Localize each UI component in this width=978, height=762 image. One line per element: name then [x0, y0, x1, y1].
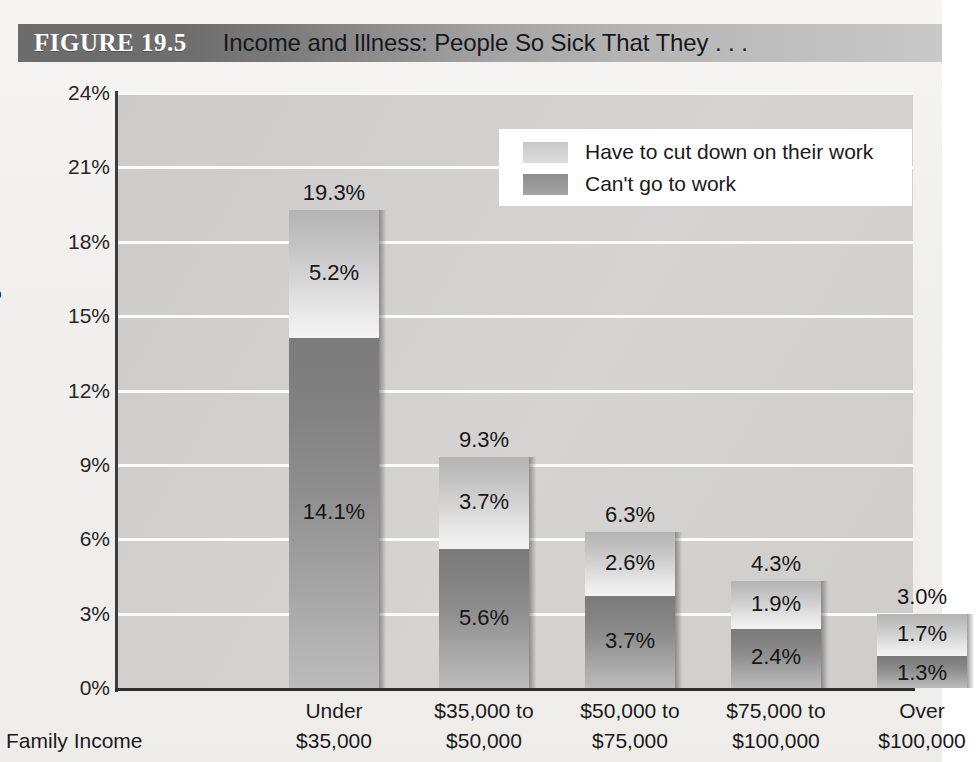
x-axis-tick-label-line: $50,000 to [545, 696, 715, 726]
bar-segment-cant-go-to-work[interactable]: 1.3% [877, 656, 967, 688]
bar-segment-cut-down-on-work[interactable]: 3.7% [439, 457, 529, 549]
legend-item: Have to cut down on their work [523, 137, 912, 167]
bar-segment-value-label: 5.6% [439, 605, 529, 631]
chart: 14.1%5.2%19.3%5.6%3.7%9.3%3.7%2.6%6.3%2.… [0, 62, 942, 762]
bar-segment-value-label: 3.7% [585, 628, 675, 654]
x-axis-tick-label-line: Over [837, 696, 978, 726]
gridline [117, 241, 913, 244]
bar-segment-value-label: 1.9% [731, 591, 821, 617]
gridline [117, 390, 913, 393]
bar-group[interactable]: 3.7%2.6%6.3% [585, 532, 675, 688]
x-axis-tick-label-line: $35,000 [249, 726, 419, 756]
x-axis-tick-label: Over$100,000 [837, 696, 978, 756]
y-axis-tick-label: 15% [6, 304, 110, 328]
bar-shadow [379, 210, 386, 339]
y-axis-title: Percentage [0, 278, 2, 380]
bar-segment-value-label: 5.2% [289, 260, 379, 286]
bar-segment-cut-down-on-work[interactable]: 5.2% [289, 210, 379, 339]
bar-shadow [967, 614, 974, 656]
legend-swatch-dark-icon [523, 174, 568, 195]
bar-total-label: 9.3% [427, 427, 541, 453]
y-axis-tick-label: 12% [6, 379, 110, 403]
figure-number-label: FIGURE 19.5 [34, 29, 187, 57]
y-axis-line [115, 91, 118, 692]
bar-total-label: 19.3% [277, 180, 391, 206]
bar-segment-cant-go-to-work[interactable]: 3.7% [585, 596, 675, 688]
y-axis-tick-labels: 0%3%6%9%12%15%18%21%24% [0, 62, 110, 722]
bar-segment-cut-down-on-work[interactable]: 1.7% [877, 614, 967, 656]
bar-segment-value-label: 2.6% [585, 550, 675, 576]
y-axis-tick-label: 18% [6, 230, 110, 254]
y-axis-tick-label: 6% [6, 527, 110, 551]
gridline [117, 92, 913, 95]
x-axis-tick-label: $50,000 to$75,000 [545, 696, 715, 756]
bar-total-label: 6.3% [573, 502, 687, 528]
bar-segment-cut-down-on-work[interactable]: 2.6% [585, 532, 675, 596]
x-axis-tick-label: $35,000 to$50,000 [399, 696, 569, 756]
figure-title: Income and Illness: People So Sick That … [223, 29, 748, 57]
bar-total-label: 4.3% [719, 551, 833, 577]
bar-segment-value-label: 1.7% [877, 621, 967, 647]
bar-segment-value-label: 2.4% [731, 644, 821, 670]
legend-swatch-light-icon [523, 142, 568, 163]
bar-shadow [967, 656, 974, 688]
bar-shadow [379, 338, 386, 688]
bar-group[interactable]: 5.6%3.7%9.3% [439, 457, 529, 688]
y-axis-tick-label: 21% [6, 155, 110, 179]
bar-group[interactable]: 1.3%1.7%3.0% [877, 614, 967, 688]
bar-segment-cant-go-to-work[interactable]: 14.1% [289, 338, 379, 688]
bar-segment-cut-down-on-work[interactable]: 1.9% [731, 581, 821, 628]
x-axis-title: Family Income [6, 726, 166, 756]
x-axis-tick-label-line: $100,000 [837, 726, 978, 756]
bar-group[interactable]: 2.4%1.9%4.3% [731, 581, 821, 688]
y-axis-tick-label: 3% [6, 602, 110, 626]
x-axis-tick-label: $75,000 to$100,000 [691, 696, 861, 756]
bar-segment-value-label: 1.3% [877, 660, 967, 686]
bar-segment-value-label: 14.1% [289, 499, 379, 525]
x-axis-tick-label-line: $75,000 to [691, 696, 861, 726]
y-axis-tick-label: 24% [6, 81, 110, 105]
x-axis-tick-label: Under$35,000 [249, 696, 419, 756]
bar-shadow [821, 581, 828, 628]
y-axis-tick-label: 9% [6, 453, 110, 477]
x-axis-tick-label-line: $100,000 [691, 726, 861, 756]
bar-total-label: 3.0% [865, 584, 978, 610]
x-axis-tick-label-line: Under [249, 696, 419, 726]
bar-shadow [529, 457, 536, 549]
bar-group[interactable]: 14.1%5.2%19.3% [289, 210, 379, 688]
figure-banner: FIGURE 19.5 Income and Illness: People S… [18, 24, 942, 62]
bar-shadow [529, 549, 536, 688]
x-axis-line [115, 688, 915, 691]
x-axis-tick-label-line: $50,000 [399, 726, 569, 756]
bar-segment-value-label: 3.7% [439, 489, 529, 515]
legend-label: Have to cut down on their work [585, 140, 873, 164]
bar-segment-cant-go-to-work[interactable]: 5.6% [439, 549, 529, 688]
x-axis-tick-labels: Family Income Under$35,000$35,000 to$50,… [0, 696, 942, 762]
legend-item: Can't go to work [523, 169, 912, 199]
gridline [117, 315, 913, 318]
legend: Have to cut down on their work Can't go … [499, 129, 912, 206]
x-axis-tick-label-line: $75,000 [545, 726, 715, 756]
bar-shadow [675, 532, 682, 596]
bar-segment-cant-go-to-work[interactable]: 2.4% [731, 629, 821, 689]
x-axis-tick-label-line: $35,000 to [399, 696, 569, 726]
bar-shadow [675, 596, 682, 688]
legend-label: Can't go to work [585, 172, 736, 196]
bar-shadow [821, 629, 828, 689]
